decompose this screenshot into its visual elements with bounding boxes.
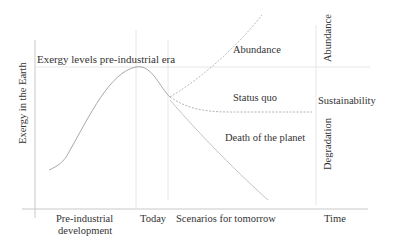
death-curve bbox=[170, 100, 268, 200]
x-label-pre-industrial-2: development bbox=[58, 225, 112, 237]
historical-curve bbox=[49, 67, 170, 170]
y-axis-label: Exergy in the Earth bbox=[17, 62, 28, 144]
x-label-today: Today bbox=[140, 213, 166, 225]
scenario-status-quo-label: Status quo bbox=[233, 92, 277, 104]
scenario-death-label: Death of the planet bbox=[225, 132, 305, 144]
x-label-time: Time bbox=[324, 213, 346, 225]
scenario-abundance-label: Abundance bbox=[233, 44, 281, 56]
diagram-canvas bbox=[0, 0, 395, 247]
outcome-sustainability-label: Sustainability bbox=[318, 95, 376, 107]
outcome-degradation-label: Degradation bbox=[322, 118, 333, 170]
x-label-pre-industrial-1: Pre-industrial bbox=[56, 213, 113, 225]
reference-line-label: Exergy levels pre-industrial era bbox=[37, 53, 175, 66]
x-label-scenarios: Scenarios for tomorrow bbox=[176, 213, 276, 225]
outcome-abundance-label: Abundance bbox=[322, 14, 333, 62]
